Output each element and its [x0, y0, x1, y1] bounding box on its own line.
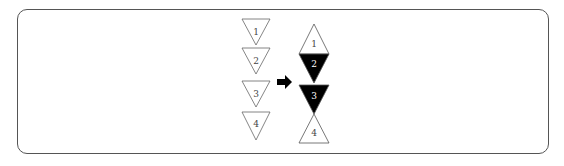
left-triangle-3: 3: [242, 81, 270, 107]
right-triangle-label: 4: [311, 128, 317, 138]
left-triangle-label: 1: [253, 27, 259, 37]
left-triangle-4: 4: [242, 112, 270, 140]
right-triangle-label: 3: [311, 91, 317, 101]
right-triangle-label: 1: [311, 39, 317, 49]
left-triangle-label: 4: [253, 119, 259, 129]
triangle-diagram: 1 2 3 4 1 2 3: [0, 0, 564, 166]
right-triangle-4: 4: [299, 114, 329, 143]
right-arrow-icon: [277, 75, 292, 89]
right-triangle-3: 3: [299, 85, 329, 114]
right-triangle-1: 1: [299, 24, 329, 54]
left-column: 1 2 3 4: [242, 19, 270, 140]
right-triangle-label: 2: [311, 59, 317, 69]
right-triangle-2: 2: [299, 54, 329, 83]
left-triangle-2: 2: [242, 48, 270, 74]
left-triangle-label: 3: [253, 89, 259, 99]
right-column: 1 2 3 4: [299, 24, 329, 143]
left-triangle-label: 2: [253, 56, 259, 66]
left-triangle-1: 1: [242, 19, 270, 45]
